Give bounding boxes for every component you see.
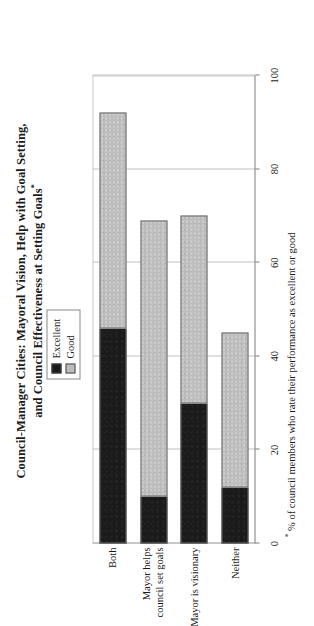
tick-mark-80 xyxy=(256,168,260,169)
legend-swatch-good xyxy=(65,363,75,373)
chart-title-footnote-marker: * xyxy=(29,184,38,188)
chart-title-line-2: and Council Effectiveness at Setting Goa… xyxy=(31,188,45,418)
category-label: Neither xyxy=(229,547,242,579)
tick-mark-60 xyxy=(256,261,260,262)
tick-mark-40 xyxy=(256,355,260,356)
tick-label-40: 40 xyxy=(269,351,280,362)
chart-title: Council-Manager Cities: Mayoral Vision, … xyxy=(13,0,47,601)
footnote-marker: * xyxy=(284,533,293,537)
chart-title-line-1: Council-Manager Cities: Mayoral Vision, … xyxy=(14,123,28,478)
legend-label-excellent: Excellent xyxy=(52,318,63,358)
chart-footnote: * % of council members who rate their pe… xyxy=(285,232,298,537)
tick-mark-0 xyxy=(256,542,260,543)
category-axis-labels: BothMayor helps council set goalsMayor i… xyxy=(93,75,256,543)
tick-label-0: 0 xyxy=(269,540,280,545)
category-label: Mayor helps council set goals xyxy=(141,547,167,617)
tick-label-100: 100 xyxy=(269,67,280,83)
chart-legend: Excellent Good xyxy=(47,309,81,379)
tick-label-20: 20 xyxy=(269,444,280,455)
tick-label-80: 80 xyxy=(269,163,280,174)
tick-label-60: 60 xyxy=(269,257,280,268)
category-label: Both xyxy=(106,547,119,567)
tick-mark-100 xyxy=(256,74,260,75)
footnote-text: % of council members who rate their perf… xyxy=(286,232,297,530)
chart-figure: Council-Manager Cities: Mayoral Vision, … xyxy=(7,0,314,601)
rotated-figure-canvas: Council-Manager Cities: Mayoral Vision, … xyxy=(7,0,314,601)
category-label: Mayor is visionary xyxy=(188,547,201,626)
legend-item-good[interactable]: Good xyxy=(65,318,76,373)
legend-swatch-excellent xyxy=(52,363,62,373)
legend-label-good: Good xyxy=(65,335,76,358)
tick-mark-20 xyxy=(256,448,260,449)
legend-item-excellent[interactable]: Excellent xyxy=(52,318,63,373)
